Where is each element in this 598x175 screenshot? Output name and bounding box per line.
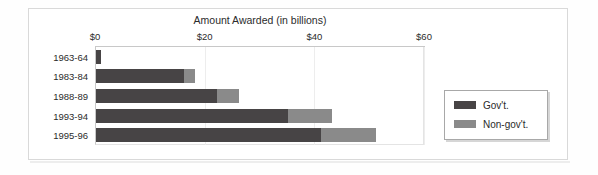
stacked-bar[interactable] [96, 128, 376, 142]
category-label: 1993-94 [53, 110, 88, 121]
legend-swatch-gov-icon [454, 101, 476, 109]
bar-segment-gov[interactable] [96, 50, 101, 64]
bar-segment-nongov[interactable] [288, 109, 332, 123]
stacked-bar[interactable] [96, 109, 332, 123]
chart-title: Amount Awarded (in billions) [95, 14, 425, 26]
stacked-bar[interactable] [96, 69, 195, 83]
legend: Gov't. Non-gov't. [444, 90, 548, 140]
chart-figure: Amount Awarded (in billions) $0$20$40$60… [0, 0, 598, 175]
bar-row: 1963-64 [95, 47, 424, 67]
legend-swatch-nongov-icon [454, 120, 476, 128]
figure-frame-shadow [30, 161, 570, 163]
bar-segment-gov[interactable] [96, 89, 217, 103]
legend-item-gov[interactable]: Gov't. [454, 98, 539, 112]
x-tick-label: $20 [197, 31, 213, 42]
bar-row: 1993-94 [95, 106, 424, 126]
category-label: 1988-89 [53, 90, 88, 101]
bar-segment-gov[interactable] [96, 128, 321, 142]
x-tick-label: $40 [306, 31, 322, 42]
bar-segment-gov[interactable] [96, 69, 184, 83]
bar-segment-nongov[interactable] [184, 69, 195, 83]
bar-segment-nongov[interactable] [217, 89, 239, 103]
bar-row: 1995-96 [95, 125, 424, 145]
bar-segment-nongov[interactable] [321, 128, 376, 142]
x-tick-label: $60 [416, 31, 432, 42]
legend-item-nongov[interactable]: Non-gov't. [454, 117, 539, 131]
stacked-bar[interactable] [96, 89, 239, 103]
bar-row: 1983-84 [95, 67, 424, 87]
bar-row: 1988-89 [95, 86, 424, 106]
category-label: 1963-64 [53, 51, 88, 62]
category-label: 1983-84 [53, 71, 88, 82]
category-label: 1995-96 [53, 130, 88, 141]
bar-segment-gov[interactable] [96, 109, 288, 123]
legend-label-nongov: Non-gov't. [483, 119, 528, 130]
stacked-bar[interactable] [96, 50, 101, 64]
x-tick-label: $0 [90, 31, 101, 42]
grid-line [424, 47, 425, 145]
legend-label-gov: Gov't. [483, 100, 509, 111]
